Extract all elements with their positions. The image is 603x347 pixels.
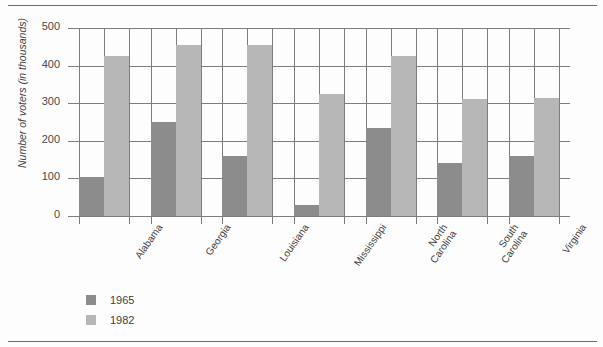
x-axis-tick-label-line: Alabama	[133, 222, 165, 261]
bar-virginia-1982	[534, 98, 559, 216]
y-axis-tick-label: 200	[42, 133, 66, 146]
x-axis-tick-label-line: Virginia	[560, 222, 588, 255]
x-axis-tick-label-line: Mississippi	[352, 222, 389, 268]
y-axis-tick-label: 400	[42, 58, 66, 71]
bar-georgia-1965	[151, 122, 176, 216]
x-axis-tick-label: Georgia	[203, 222, 232, 257]
bar-north-carolina-1982	[391, 56, 416, 216]
x-axis-tick-label: Mississippi	[352, 222, 389, 268]
gridline-horizontal	[68, 216, 570, 217]
gridline-vertical	[294, 28, 295, 224]
bar-north-carolina-1965	[366, 128, 391, 216]
plot-area	[68, 28, 570, 216]
chart-legend: 19651982	[86, 290, 134, 330]
legend-swatch-icon	[86, 315, 96, 325]
x-axis-tick-label: NorthCarolina	[419, 222, 458, 265]
legend-label: 1965	[110, 294, 134, 306]
bar-georgia-1982	[176, 45, 201, 216]
y-axis-tick-label: 500	[42, 20, 66, 33]
figure-top-rule	[8, 5, 597, 6]
x-axis-tick-label: Louisiana	[278, 222, 312, 263]
legend-item-1982: 1982	[86, 310, 134, 330]
bar-louisiana-1982	[247, 45, 272, 216]
figure-bottom-rule	[8, 341, 597, 342]
gridline-vertical	[272, 28, 273, 224]
gridline-vertical	[344, 28, 345, 224]
x-axis-tick-label: SouthCarolina	[490, 222, 529, 265]
bar-alabama-1982	[104, 56, 129, 216]
bar-virginia-1965	[509, 156, 534, 216]
y-axis-tick-label: 0	[54, 208, 66, 221]
bar-south-carolina-1965	[437, 163, 462, 216]
y-axis-title: Number of voters (in thousands)	[16, 28, 28, 168]
y-axis-tick-label: 300	[42, 95, 66, 108]
x-axis-tick-label: Virginia	[560, 222, 588, 255]
bar-mississippi-1965	[294, 205, 319, 216]
bar-south-carolina-1982	[462, 99, 487, 216]
legend-swatch-icon	[86, 295, 96, 305]
legend-label: 1982	[110, 314, 134, 326]
gridline-vertical	[129, 28, 130, 224]
gridline-vertical	[201, 28, 202, 224]
legend-item-1965: 1965	[86, 290, 134, 310]
x-axis-tick-label-line: Georgia	[203, 222, 232, 257]
chart-figure: Number of voters (in thousands) 01002003…	[0, 0, 603, 347]
bar-alabama-1965	[79, 177, 104, 216]
gridline-vertical	[559, 28, 560, 224]
bar-louisiana-1965	[222, 156, 247, 216]
x-axis-tick-label: Alabama	[133, 222, 165, 261]
gridline-vertical	[416, 28, 417, 224]
x-axis-tick-label-line: Louisiana	[278, 222, 312, 263]
y-axis-tick-labels: 0100200300400500	[28, 28, 66, 216]
bar-mississippi-1982	[319, 94, 344, 216]
gridline-vertical	[487, 28, 488, 224]
y-axis-tick-label: 100	[42, 170, 66, 183]
